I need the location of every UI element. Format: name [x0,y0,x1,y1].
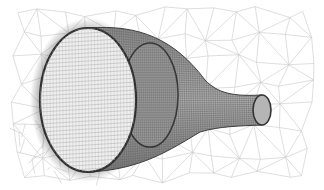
mesh-edge [25,176,45,178]
mesh-edge [286,131,302,157]
mesh-edge [280,104,301,131]
mesh-edge [205,12,236,41]
mesh-edge [259,32,285,34]
mesh-edge [255,7,290,18]
mesh-edge [43,158,45,175]
mesh-edge [187,8,214,9]
mesh-edge [279,128,285,158]
mesh-edge [13,54,42,56]
mesh-edge [18,13,25,32]
mesh-edge [285,34,311,37]
mesh-edge [206,55,239,89]
mesh-edge [280,102,312,104]
mesh-edge [165,7,187,9]
mesh-edge [240,158,261,159]
mesh-edge [259,32,289,64]
mesh-edge [312,37,314,63]
mesh-edge [255,7,259,33]
mesh-edge [205,8,213,41]
mesh-edge [285,18,290,35]
mesh-edge [240,158,258,171]
mesh-edge [37,9,66,12]
mesh-edge [18,9,37,13]
mesh-edge [211,156,239,159]
mesh-edge [214,158,240,173]
mesh-edge [279,80,314,86]
mesh-edge [239,32,259,54]
mesh-edge [256,32,259,62]
mesh-edge [214,8,237,12]
mesh-edge [290,11,303,17]
mesh-edge [19,132,20,147]
mesh-edge [47,167,50,170]
mesh-edge [254,125,286,158]
mesh-edge [24,9,36,32]
mesh-edge [257,159,260,171]
mesh-edge [256,62,288,64]
mesh-edge [301,148,307,175]
mesh-edge [214,173,231,177]
mesh-edge [20,139,25,153]
mesh-edge [232,12,237,40]
mesh-edge [236,12,259,33]
mesh-edge [208,55,239,56]
mesh-edge [186,41,205,59]
mesh-edge [230,134,240,158]
mesh-edge [162,152,192,159]
mesh-edge [208,128,211,156]
mesh-edge [289,37,312,64]
mesh-edge [290,176,301,178]
mesh-edge [211,156,214,173]
mesh-edge [254,125,260,160]
mesh-edge [205,41,238,55]
mesh-edge [301,131,307,148]
mesh-edge [289,63,314,64]
mesh-edge [24,32,41,54]
mesh-edge [236,7,255,12]
mesh-edge [239,55,257,63]
mesh-edge [235,82,261,87]
mesh-edge [163,152,193,182]
mesh-edge [11,84,21,102]
mesh-edge [285,34,289,64]
mesh-edge [279,104,280,128]
mesh-edge [11,102,13,124]
mesh-edge [185,34,186,59]
mesh-edge [286,148,307,157]
mesh-edge [231,171,257,177]
mesh-edge [136,7,165,15]
mesh-edge [279,86,280,104]
mesh-edge [301,102,312,131]
mesh-edge [185,9,187,34]
mesh-edge [279,128,301,132]
mesh-edge [289,65,314,80]
mesh-edge [257,171,290,177]
mesh-edge [17,152,24,178]
mesh-edge [312,80,313,102]
mesh-edge [158,7,165,39]
mesh-edge [37,9,41,36]
mesh-edge [32,160,35,174]
mesh-edge [66,12,85,16]
mesh-edge [85,11,116,17]
mesh-edge [116,11,136,15]
outlet-opening [253,95,271,125]
mesh-edge [22,124,25,137]
mesh-edge [205,41,208,56]
mesh-edge [187,9,205,41]
mesh-edge [13,56,22,85]
mesh-rendering [0,0,324,190]
mesh-edge [280,80,313,104]
mesh-edge [205,40,231,41]
mesh-edge [231,158,239,177]
mesh-edge [186,56,208,58]
mesh-edge [259,18,290,33]
mesh-edge [13,32,24,56]
mesh-edge [163,173,190,183]
mesh-edge [235,55,239,87]
mesh-edge [17,152,43,158]
mesh-edge [232,40,239,55]
mesh-edge [232,32,259,40]
